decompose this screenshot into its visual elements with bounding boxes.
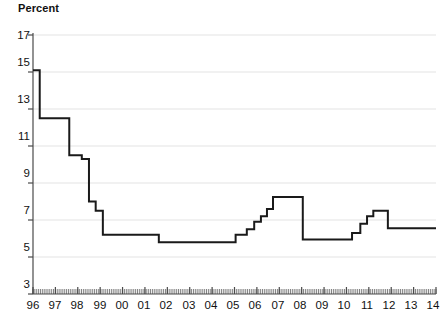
x-tick-label: 07 — [267, 300, 289, 311]
x-tick-label: 10 — [333, 300, 355, 311]
x-tick-label: 13 — [400, 300, 422, 311]
x-tick-label: 05 — [222, 300, 244, 311]
x-tick-label: 06 — [244, 300, 266, 311]
chart-svg — [0, 0, 442, 323]
x-tick-label: 00 — [111, 300, 133, 311]
x-tick-label: 09 — [311, 300, 333, 311]
x-tick-label: 96 — [22, 300, 44, 311]
x-tick-label: 02 — [155, 300, 177, 311]
x-tick-label: 98 — [66, 300, 88, 311]
y-axis-line — [28, 33, 33, 294]
gridlines — [33, 35, 436, 257]
x-tick-label: 97 — [44, 300, 66, 311]
data-series-line — [33, 70, 436, 242]
x-tick-label: 08 — [289, 300, 311, 311]
x-tick-label: 99 — [89, 300, 111, 311]
x-axis-major-ticks — [33, 287, 436, 294]
chart-container: Percent 17 15 13 11 9 7 5 3 — [0, 0, 442, 323]
x-tick-label: 14 — [422, 300, 442, 311]
x-tick-label: 03 — [178, 300, 200, 311]
x-tick-label: 01 — [133, 300, 155, 311]
x-tick-label: 04 — [200, 300, 222, 311]
x-tick-label: 11 — [356, 300, 378, 311]
x-tick-label: 12 — [378, 300, 400, 311]
